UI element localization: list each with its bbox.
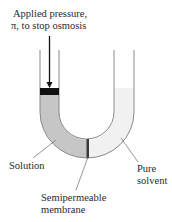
diagram-canvas: Applied pressure, π, to stop osmosis Sol… (0, 0, 172, 222)
title-line-1: Applied pressure, (13, 8, 87, 19)
membrane-label-line-1: Semipermeable (41, 192, 107, 203)
pure-solvent-label-line-1: Pure (137, 163, 157, 174)
osmosis-diagram: Applied pressure, π, to stop osmosis Sol… (0, 0, 172, 222)
solvent-fill (88, 88, 134, 158)
solution-label: Solution (9, 160, 45, 171)
tube-inner-wall (59, 50, 114, 139)
membrane-label-line-2: membrane (41, 204, 86, 215)
solution-leader-line (33, 140, 56, 158)
title-line-2: π, to stop osmosis (11, 20, 86, 31)
piston (40, 88, 59, 95)
pure-solvent-label-line-2: solvent (137, 175, 167, 186)
solvent-leader-line (121, 138, 138, 162)
membrane-leader-line (76, 157, 88, 190)
pressure-arrow-head-icon (47, 82, 53, 88)
semipermeable-membrane (87, 139, 90, 158)
